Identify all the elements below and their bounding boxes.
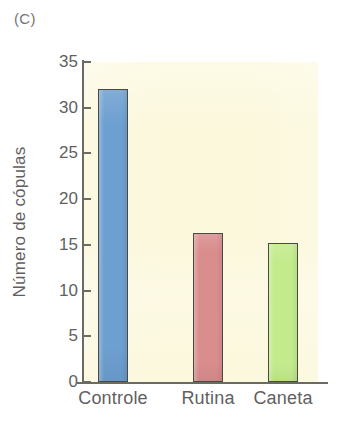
y-axis-tick-mark xyxy=(84,152,91,154)
y-axis-tick-mark xyxy=(84,244,91,246)
y-axis-tick-label: 15 xyxy=(59,235,78,255)
plot-area xyxy=(82,62,318,382)
bar-rutina xyxy=(193,233,223,382)
y-axis-title-container: Número de cópulas xyxy=(0,62,40,382)
bar-texture-overlay xyxy=(99,90,127,381)
y-axis-title: Número de cópulas xyxy=(10,147,30,298)
y-axis-tick-label: 25 xyxy=(59,143,78,163)
y-axis-tick-label: 10 xyxy=(59,281,78,301)
x-axis-tick-label: Caneta xyxy=(253,388,312,409)
y-axis-tick-label: 5 xyxy=(69,326,78,346)
x-axis-tick-label: Rutina xyxy=(181,388,234,409)
y-axis-tick-mark xyxy=(84,61,91,63)
x-axis-tick-label: Controle xyxy=(78,388,148,409)
y-axis-tick-label: 35 xyxy=(59,52,78,72)
y-axis-tick-label: 30 xyxy=(59,98,78,118)
figure-panel-c: (C) Número de cópulas 05101520253035 Con… xyxy=(0,0,340,433)
y-axis-tick-mark xyxy=(84,381,91,383)
panel-label: (C) xyxy=(14,10,36,27)
bar-caneta xyxy=(268,243,298,382)
y-axis-tick-label-group: 05101520253035 xyxy=(38,62,78,382)
y-axis-tick-mark xyxy=(84,107,91,109)
bar-texture-overlay xyxy=(194,234,222,381)
bar-texture-overlay xyxy=(269,244,297,381)
y-axis-tick-mark xyxy=(84,290,91,292)
y-axis-tick-mark xyxy=(84,198,91,200)
bar-controle xyxy=(98,89,128,382)
y-axis-tick-label: 20 xyxy=(59,189,78,209)
x-axis-line xyxy=(76,382,328,384)
y-axis-tick-mark xyxy=(84,335,91,337)
x-axis-tick-label-group: ControleRutinaCaneta xyxy=(76,388,332,418)
